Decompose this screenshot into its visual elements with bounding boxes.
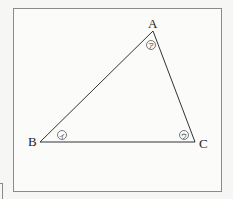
triangle-diagram: A B C ア イ ウ [0,0,233,199]
triangle-abc [40,31,195,142]
svg-text:ア: ア [148,42,154,49]
svg-text:イ: イ [59,132,65,139]
angle-mark-c: ウ [180,131,189,140]
svg-text:ウ: ウ [181,132,187,139]
angle-mark-b: イ [58,131,67,140]
vertex-label-c: C [199,136,208,151]
angle-mark-a: ア [147,41,156,50]
vertex-label-a: A [148,16,158,31]
vertex-label-b: B [28,134,37,149]
